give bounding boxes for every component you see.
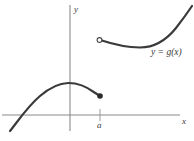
y-axis-label: y: [73, 4, 78, 14]
curve-right-branch: [101, 6, 192, 48]
graph-canvas: y x a y = g(x): [0, 0, 194, 141]
x-tick-label-a: a: [97, 120, 102, 130]
curve-left-branch: [10, 83, 100, 131]
open-endpoint-circle: [97, 38, 102, 43]
curve-label-g: y = g(x): [150, 47, 182, 58]
x-axis-label: x: [181, 116, 186, 126]
closed-endpoint-dot: [97, 93, 103, 99]
graph-figure: y x a y = g(x): [0, 0, 194, 141]
